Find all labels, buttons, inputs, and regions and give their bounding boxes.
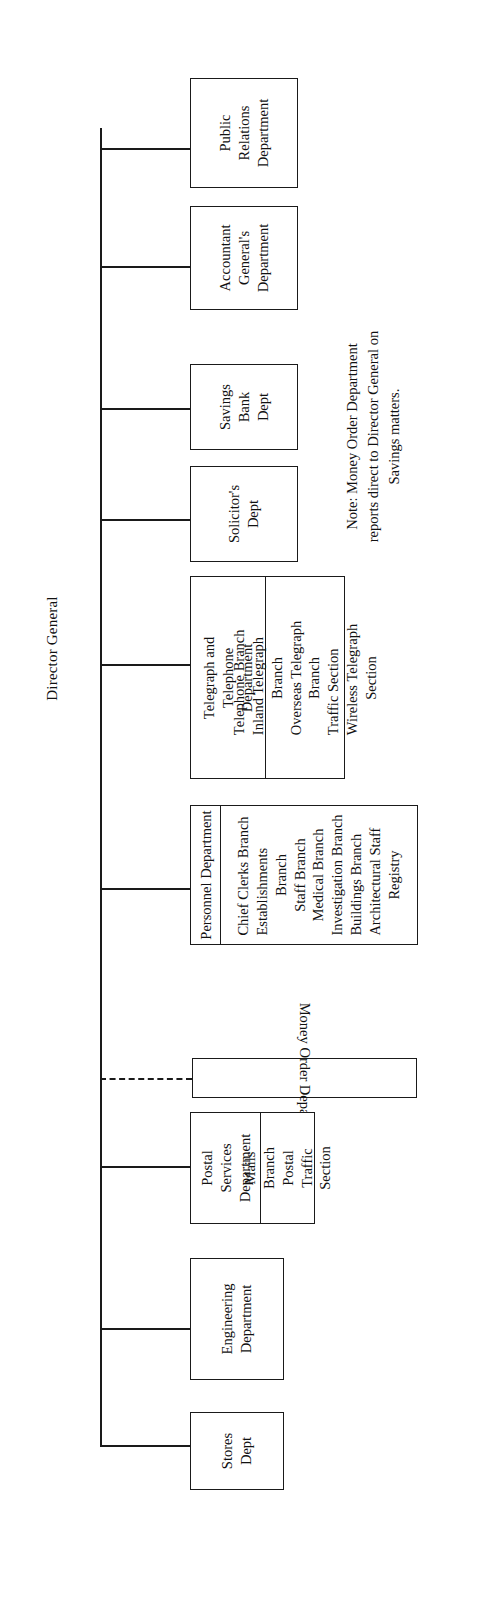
org-chart-canvas: Director General Public Relations Depart… bbox=[0, 0, 504, 1610]
sublist-item: Branch bbox=[272, 814, 291, 935]
sublist-item: Buildings Branch bbox=[347, 814, 366, 935]
connector-solicitors bbox=[100, 519, 190, 521]
node-savings-bank[interactable]: Savings Bank Dept bbox=[190, 364, 298, 450]
node-engineering[interactable]: Engineering Department bbox=[190, 1258, 284, 1380]
node-label-stores: Stores Dept bbox=[218, 1433, 256, 1469]
node-label-accountant-general: Accountant General's Department bbox=[216, 224, 273, 292]
node-public-relations[interactable]: Public Relations Department bbox=[190, 78, 298, 188]
node-money-order[interactable]: Money Order Department bbox=[192, 1058, 417, 1098]
page-title: Director General bbox=[44, 564, 61, 734]
sublist-item: Establishments bbox=[253, 814, 272, 935]
sublist-item: Registry bbox=[385, 814, 404, 935]
sublist-item: Mails bbox=[240, 1146, 259, 1190]
connector-savings-bank bbox=[100, 408, 190, 410]
chart-note: Note: Money Order Department reports dir… bbox=[342, 327, 405, 547]
node-head-personnel: Personnel Department bbox=[191, 806, 221, 944]
sublist-item: Branch bbox=[305, 620, 324, 734]
sublist-item: Branch bbox=[259, 1146, 278, 1190]
sublist-item: Branch bbox=[267, 620, 286, 734]
node-solicitors[interactable]: Solicitor's Dept bbox=[190, 466, 298, 562]
node-telegraph-telephone[interactable]: Telegraph and Telephone Department Telep… bbox=[190, 576, 345, 779]
sublist-item: Staff Branch bbox=[291, 814, 310, 935]
sublist-item: Postal bbox=[278, 1146, 297, 1190]
sublist-postal: Mails Branch Postal Traffic Section bbox=[261, 1113, 314, 1223]
node-postal-services[interactable]: Postal Services Department Mails Branch … bbox=[190, 1112, 315, 1224]
sublist-item: Wireless Telegraph bbox=[343, 620, 362, 734]
sublist-item: Traffic bbox=[297, 1146, 316, 1190]
node-personnel[interactable]: Personnel Department Chief Clerks Branch… bbox=[190, 805, 418, 945]
connector-stores bbox=[100, 1445, 190, 1447]
connector-money-order-dashed bbox=[100, 1078, 192, 1080]
sublist-item: Telephone Branch bbox=[230, 620, 249, 734]
sublist-item: Chief Clerks Branch bbox=[234, 814, 253, 935]
sublist-item: Architectural Staff bbox=[366, 814, 385, 935]
node-label-personnel: Personnel Department bbox=[196, 810, 215, 939]
sublist-item: Section bbox=[316, 1146, 335, 1190]
node-label-engineering: Engineering Department bbox=[218, 1284, 256, 1355]
sublist-item: Medical Branch bbox=[310, 814, 329, 935]
node-accountant-general[interactable]: Accountant General's Department bbox=[190, 206, 298, 310]
connector-postal-services bbox=[100, 1166, 190, 1168]
sublist-telegraph: Telephone Branch Inland Telegraph Branch… bbox=[266, 577, 344, 778]
sublist-personnel: Chief Clerks Branch Establishments Branc… bbox=[221, 806, 417, 944]
connector-personnel bbox=[100, 888, 190, 890]
sublist-item: Inland Telegraph bbox=[248, 620, 267, 734]
connector-public-relations bbox=[100, 148, 190, 150]
node-stores[interactable]: Stores Dept bbox=[190, 1412, 284, 1490]
node-label-savings-bank: Savings Bank Dept bbox=[216, 384, 273, 430]
connector-engineering bbox=[100, 1328, 190, 1330]
connector-telegraph-telephone bbox=[100, 664, 190, 666]
trunk-line bbox=[100, 128, 102, 1446]
sublist-item: Overseas Telegraph bbox=[286, 620, 305, 734]
node-label-solicitors: Solicitor's Dept bbox=[225, 485, 263, 543]
node-label-public-relations: Public Relations Department bbox=[216, 99, 273, 167]
connector-accountant-general bbox=[100, 266, 190, 268]
sublist-item: Traffic Section bbox=[324, 620, 343, 734]
sublist-item: Section bbox=[362, 620, 381, 734]
sublist-item: Investigation Branch bbox=[328, 814, 347, 935]
